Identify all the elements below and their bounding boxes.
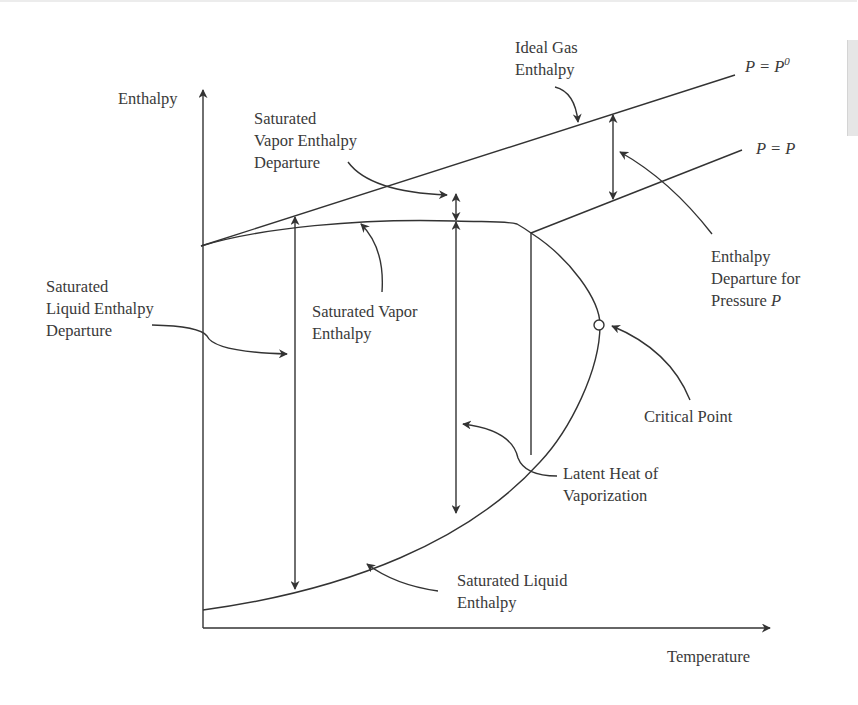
critical-point-label: Critical Point bbox=[644, 407, 733, 426]
ideal-gas-enthalpy-label: Ideal Gas Enthalpy bbox=[515, 38, 582, 79]
y-axis-label: Enthalpy bbox=[118, 89, 178, 108]
sat-liquid-enthalpy-callout-arrow bbox=[367, 564, 438, 591]
sat-vapor-enthalpy-label: Saturated Vapor Enthalpy bbox=[312, 302, 422, 343]
sat-vapor-departure-callout-arrow bbox=[348, 162, 447, 195]
critical-point-callout-arrow bbox=[612, 326, 690, 400]
ideal-gas-line-label: P = P0 bbox=[744, 55, 790, 76]
latent-heat-label: Latent Heat of Vaporization bbox=[563, 464, 662, 505]
ideal-gas-callout-arrow bbox=[555, 87, 578, 122]
pressure-p-line-label: P = P bbox=[755, 139, 795, 158]
sat-liquid-departure-callout-arrow bbox=[152, 325, 287, 354]
axes: Enthalpy Temperature bbox=[118, 89, 770, 666]
sat-vapor-enthalpy-callout-arrow bbox=[361, 224, 382, 292]
saturated-liquid-curve bbox=[203, 233, 600, 610]
sat-vapor-departure-label: Saturated Vapor Enthalpy Departure bbox=[254, 109, 361, 172]
critical-point-marker bbox=[594, 320, 604, 330]
latent-heat-callout-arrow bbox=[463, 424, 557, 476]
enthalpy-departure-pressure-label: Enthalpy Departure for Pressure P bbox=[711, 247, 804, 310]
sat-liquid-departure-label: Saturated Liquid Enthalpy Departure bbox=[46, 277, 158, 340]
x-axis-label: Temperature bbox=[667, 647, 750, 666]
sat-liquid-enthalpy-label: Saturated Liquid Enthalpy bbox=[457, 571, 572, 612]
saturated-vapor-curve bbox=[201, 220, 531, 246]
